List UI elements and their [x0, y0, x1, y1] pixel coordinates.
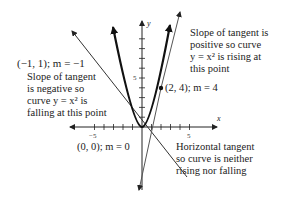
left-text-line-4: falling at this point — [27, 107, 107, 118]
right-text-line-2: positive so curve — [190, 39, 261, 50]
y-axis-label: y — [147, 18, 151, 29]
x-tick-neg5: −5 — [89, 132, 96, 140]
origin-text-line-3: rising nor falling — [176, 165, 247, 176]
left-text-line-3: curve y = x² is — [27, 95, 87, 106]
right-text-line-3: y = x² is rising at — [190, 51, 261, 62]
point-2-4 — [159, 86, 163, 90]
right-text-line-4: this point — [190, 63, 229, 74]
y-tick-5: 5 — [133, 74, 137, 82]
origin-point-label: (0, 0); m = 0 — [77, 141, 130, 152]
left-point-label: (−1, 1); m = −1 — [17, 58, 85, 69]
x-tick-5: 5 — [187, 132, 191, 140]
parabola-curve-left — [113, 27, 142, 127]
left-text-line-1: Slope of tangent — [27, 71, 96, 82]
origin-text-line-2: so curve is neither — [176, 153, 253, 164]
left-text-line-2: is negative so — [27, 83, 84, 94]
right-point-label: (2, 4); m = 4 — [165, 82, 218, 93]
origin-text-line-1: Horizontal tangent — [176, 141, 254, 152]
tangent-line-positive-up — [161, 12, 180, 88]
x-axis-label: x — [217, 113, 221, 124]
right-text-line-1: Slope of tangent is — [190, 27, 268, 38]
